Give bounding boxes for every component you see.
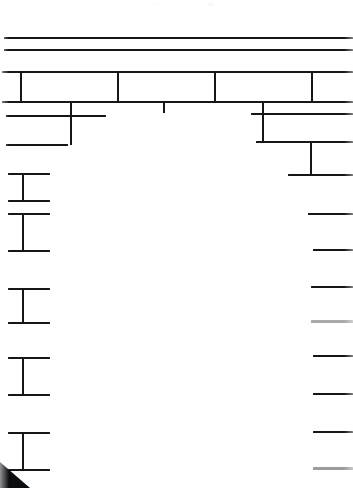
bracket-top-rule — [8, 357, 50, 359]
right-rule-7 — [313, 431, 353, 433]
bracket-top-rule — [8, 432, 50, 434]
top-rule-2 — [4, 49, 353, 51]
page-left-edge-fade — [0, 0, 9, 488]
bracket-stem — [262, 114, 264, 142]
bracket-bottom-rule — [8, 250, 50, 252]
scanned-page: ·· ·· ·· ··· ·o· — [0, 0, 353, 488]
right-rule-4 — [311, 320, 353, 323]
page-right-edge-fade — [344, 0, 353, 488]
header-row-bottom-rule — [2, 101, 353, 103]
bracket-bottom-rule — [8, 200, 50, 202]
right-rule-3 — [311, 286, 353, 288]
stub-left — [70, 102, 72, 116]
ghost-text: ·· ·· — [64, 0, 77, 8]
top-rule-1 — [4, 37, 353, 39]
right-rule-8 — [313, 467, 353, 470]
ghost-text: ·o· — [206, 0, 215, 8]
stub-center — [163, 102, 165, 113]
bracket-top-rule — [8, 213, 50, 215]
bracket-stem — [22, 289, 24, 323]
bracket-top-rule — [6, 115, 106, 117]
right-rule-5 — [313, 355, 353, 357]
ghost-text: ·· ··· — [148, 0, 164, 8]
top-rule-3 — [2, 71, 353, 73]
bracket-stem — [22, 358, 24, 395]
header-divider-4 — [311, 73, 313, 102]
bracket-top-rule — [8, 288, 50, 290]
right-rule-2 — [313, 249, 353, 251]
bracket-stem — [70, 116, 72, 145]
bracket-top-rule — [8, 173, 50, 175]
scan-corner-wedge — [0, 462, 30, 488]
bracket-stem — [22, 214, 24, 251]
bracket-bottom-rule — [256, 141, 353, 143]
right-rule-6 — [313, 393, 353, 395]
header-divider-3 — [214, 73, 216, 102]
bracket-top-rule — [251, 113, 353, 115]
bracket-bottom-rule — [6, 144, 68, 146]
bracket-stem — [22, 174, 24, 201]
header-divider-2 — [117, 73, 119, 102]
bracket-bottom-rule — [8, 322, 50, 324]
bracket-bottom-rule — [288, 174, 353, 176]
bracket-stem — [310, 142, 312, 175]
bracket-bottom-rule — [8, 394, 50, 396]
header-divider-1 — [20, 73, 22, 102]
right-rule-1 — [308, 213, 353, 215]
